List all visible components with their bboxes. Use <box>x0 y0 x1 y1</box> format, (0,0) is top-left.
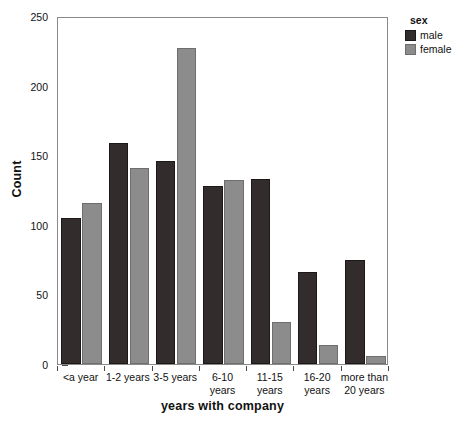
bar-female-6 <box>366 356 386 364</box>
x-axis-title: years with company <box>57 399 388 413</box>
bar-male-6 <box>345 260 365 364</box>
bar-female-0 <box>82 203 102 364</box>
y-tick-mark <box>62 365 68 366</box>
legend-swatch-female-icon <box>405 44 416 55</box>
x-tick-label: <a year <box>57 371 104 384</box>
bar-chart: 050100150200250 Count <a year1-2 years3-… <box>0 0 460 424</box>
bar-male-2 <box>156 161 176 364</box>
bar-female-4 <box>272 322 292 364</box>
y-tick-label: 0 <box>14 359 48 371</box>
bar-male-1 <box>109 143 129 364</box>
bar-male-3 <box>203 186 223 364</box>
y-tick-label: 200 <box>14 81 48 93</box>
x-tick-label: more than20 years <box>334 371 395 396</box>
bar-female-5 <box>319 345 339 364</box>
plot-area <box>57 17 388 365</box>
bar-male-4 <box>251 179 271 364</box>
legend-label-male: male <box>420 29 443 41</box>
bars-layer <box>58 18 387 364</box>
y-axis-title: Count <box>10 134 24 224</box>
bar-female-3 <box>224 180 244 364</box>
x-tick-label: 1-2 years <box>104 371 151 384</box>
legend-label-female: female <box>420 43 452 55</box>
y-tick-label: 250 <box>14 11 48 23</box>
bar-female-2 <box>177 48 197 364</box>
legend-item-male[interactable]: male <box>405 29 460 41</box>
legend-title: sex <box>410 14 460 26</box>
bar-female-1 <box>130 168 150 364</box>
y-tick-label: 50 <box>14 289 48 301</box>
legend: sex male female <box>405 14 460 57</box>
bar-male-5 <box>298 272 318 364</box>
legend-swatch-male-icon <box>405 30 416 41</box>
legend-item-female[interactable]: female <box>405 43 460 55</box>
x-tick-label: 6-10years <box>199 371 246 396</box>
x-tick-label: 11-15years <box>246 371 293 396</box>
x-tick-label: 3-5 years <box>152 371 199 384</box>
bar-male-0 <box>61 218 81 364</box>
